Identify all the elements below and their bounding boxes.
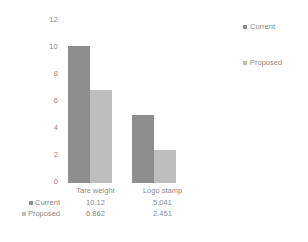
category-label-logo-stamp: Logo stamp <box>129 187 196 195</box>
y-tick-label: 4 <box>34 124 58 132</box>
table-cell-proposed-logo-stamp: 2.451 <box>129 210 196 218</box>
category-label-tare-weight: Tare weight <box>62 187 129 195</box>
data-table: Tare weight Logo stamp Current 10.12 5.0… <box>0 184 196 219</box>
table-cell-current-logo-stamp: 5.041 <box>129 199 196 207</box>
square-marker-icon <box>243 25 247 29</box>
legend-item-label: Proposed <box>250 59 282 67</box>
table-row: Proposed 6.862 2.451 <box>0 208 196 219</box>
series-name-label: Proposed <box>28 210 60 218</box>
series-name-cell-proposed[interactable]: Proposed <box>0 210 62 218</box>
y-tick-label: 10 <box>34 43 58 51</box>
plot-area <box>62 20 190 183</box>
bar-proposed-logo-stamp[interactable] <box>154 150 176 183</box>
y-tick-label: 2 <box>34 151 58 159</box>
legend-item-label: Current <box>250 23 275 31</box>
legend-item-current[interactable]: Current <box>243 22 307 32</box>
square-marker-icon <box>29 201 33 205</box>
table-cell-proposed-tare-weight: 6.862 <box>62 210 129 218</box>
bar-current-logo-stamp[interactable] <box>132 115 154 183</box>
square-marker-icon <box>22 212 26 216</box>
series-name-cell-current[interactable]: Current <box>0 199 62 207</box>
series-name-label: Current <box>35 199 60 207</box>
table-row: Current 10.12 5.041 <box>0 197 196 208</box>
bar-group-logo-stamp <box>132 20 190 183</box>
y-tick-label: 8 <box>34 70 58 78</box>
table-header-row: Tare weight Logo stamp <box>0 184 196 197</box>
y-tick-label: 12 <box>34 16 58 24</box>
bar-proposed-tare-weight[interactable] <box>90 90 112 183</box>
bar-current-tare-weight[interactable] <box>68 46 90 183</box>
bar-chart: 12 10 8 6 4 2 0 Current Proposed T <box>0 0 308 242</box>
table-cell-current-tare-weight: 10.12 <box>62 199 129 207</box>
y-tick-label: 6 <box>34 97 58 105</box>
square-marker-icon <box>243 61 247 65</box>
legend: Current Proposed <box>243 22 307 94</box>
bar-group-tare-weight <box>68 20 126 183</box>
legend-item-proposed[interactable]: Proposed <box>243 58 307 68</box>
